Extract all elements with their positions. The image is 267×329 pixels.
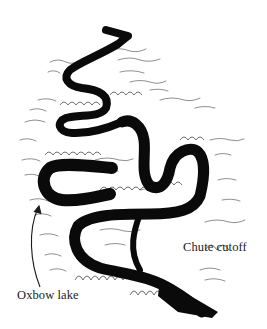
illustration <box>0 0 267 329</box>
river-channel <box>44 30 204 312</box>
river-upper-reach <box>60 30 128 133</box>
oxbow-lake <box>44 165 112 201</box>
oxbow-lake-label: Oxbow lake <box>17 288 79 303</box>
chute-cutoff-channel <box>133 214 140 270</box>
curved-arrow-icon <box>31 206 41 287</box>
river-lower-reach <box>158 278 218 318</box>
river-meander-diagram: Oxbow lake Chute cutoff <box>0 0 267 329</box>
chute-cutoff-label: Chute cutoff <box>183 240 247 255</box>
